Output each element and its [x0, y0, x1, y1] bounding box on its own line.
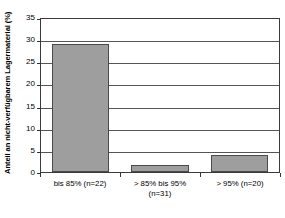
- x-tick-mark: [200, 173, 201, 177]
- bar[interactable]: [211, 155, 268, 172]
- y-axis-tick-labels: 05101520253035: [16, 18, 38, 173]
- bar[interactable]: [131, 165, 188, 172]
- y-tick-label: 5: [31, 147, 35, 155]
- bar-slot: [200, 19, 279, 172]
- bar-slot: [41, 19, 120, 172]
- x-axis-category-label-line1: bis 85% (n=22): [54, 179, 107, 188]
- y-tick-label: 10: [26, 125, 35, 133]
- bars-layer: [41, 19, 279, 172]
- x-tick-mark: [280, 173, 281, 177]
- y-axis-title-text: Anteil an nicht-verfügbarem Lagermateria…: [4, 11, 12, 173]
- y-axis-title: Anteil an nicht-verfügbarem Lagermateria…: [0, 0, 16, 185]
- x-axis-category-label-line1: > 85% bis 95%: [134, 179, 186, 188]
- plot-area: [40, 18, 280, 173]
- x-axis-labels: bis 85% (n=22)> 85% bis 95%(n=31)> 95% (…: [40, 179, 280, 217]
- bar-slot: [120, 19, 199, 172]
- y-tick-label: 30: [26, 36, 35, 44]
- y-tick-label: 20: [26, 80, 35, 88]
- y-tick-label: 35: [26, 14, 35, 22]
- y-tick-label: 25: [26, 58, 35, 66]
- x-tick-mark: [40, 173, 41, 177]
- y-tick-label: 15: [26, 103, 35, 111]
- x-axis-category-label: bis 85% (n=22): [40, 179, 120, 189]
- x-axis-category-label: > 95% (n=20): [200, 179, 280, 189]
- bar[interactable]: [52, 44, 109, 172]
- bar-chart: Anteil an nicht-verfügbarem Lagermateria…: [0, 0, 285, 218]
- y-tick-label: 0: [31, 169, 35, 177]
- x-axis-category-label-line2: (n=31): [120, 189, 200, 199]
- x-axis-category-label-line1: > 95% (n=20): [216, 179, 263, 188]
- x-tick-mark: [120, 173, 121, 177]
- x-axis-ticks: [40, 173, 280, 178]
- x-axis-category-label: > 85% bis 95%(n=31): [120, 179, 200, 199]
